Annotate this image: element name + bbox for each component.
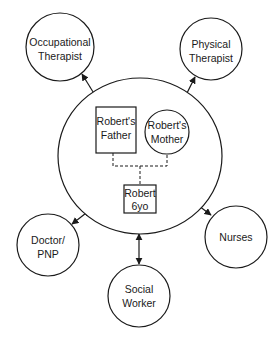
social-worker-circle — [108, 265, 170, 327]
social-worker-label-2: Worker — [122, 297, 156, 309]
child-label-2: 6yo — [132, 200, 149, 212]
mother-label-2: Mother — [151, 133, 184, 145]
family-care-diagram: Occupational Therapist Physical Therapis… — [0, 0, 280, 337]
doctor-pnp-label-2: PNP — [37, 248, 59, 260]
node-family: Robert's Father Robert's Mother Robert 6… — [58, 78, 222, 234]
nurses-label: Nurses — [219, 231, 252, 243]
mother-circle — [145, 110, 189, 154]
father-label-1: Robert's — [97, 115, 136, 127]
node-physical-therapist: Physical Therapist — [180, 18, 242, 80]
node-occupational-therapist: Occupational Therapist — [26, 13, 94, 81]
node-social-worker: Social Worker — [108, 265, 170, 327]
father-label-2: Father — [101, 129, 132, 141]
physical-therapist-label-2: Therapist — [189, 52, 233, 64]
occupational-therapist-label-2: Therapist — [38, 50, 82, 62]
node-doctor-pnp: Doctor/ PNP — [17, 214, 79, 276]
node-mother: Robert's Mother — [145, 110, 189, 154]
node-father: Robert's Father — [96, 107, 136, 153]
node-nurses: Nurses — [205, 206, 267, 268]
child-label-1: Robert — [124, 187, 156, 199]
node-child: Robert 6yo — [124, 185, 156, 213]
social-worker-label-1: Social — [125, 283, 154, 295]
mother-label-1: Robert's — [148, 119, 187, 131]
occupational-therapist-label-1: Occupational — [29, 36, 90, 48]
physical-therapist-label-1: Physical — [191, 38, 230, 50]
doctor-pnp-label-1: Doctor/ — [31, 234, 65, 246]
